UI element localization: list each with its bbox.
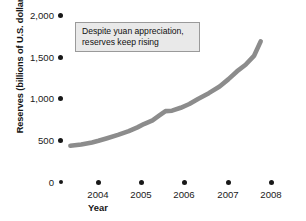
data-line-reserves: [70, 41, 260, 145]
plot-area: [0, 0, 306, 221]
chart-container: Reserves (billions of U.S. dollars) 2,00…: [0, 0, 306, 221]
